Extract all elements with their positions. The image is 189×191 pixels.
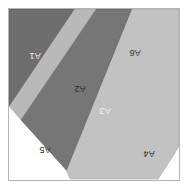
regions-diagram: [9, 9, 179, 180]
figure-root: A1A2A3A4A5A6: [0, 0, 189, 191]
figure-frame: A1A2A3A4A5A6: [8, 8, 180, 181]
